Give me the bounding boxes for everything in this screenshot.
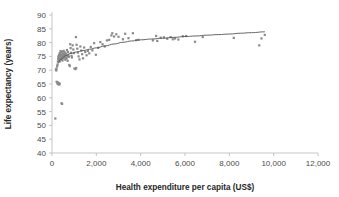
data-point [233, 37, 235, 39]
data-point [67, 51, 69, 53]
data-point [83, 46, 85, 48]
x-axis-tick-labels: 02,0004,0006,0008,00010,00012,000 [50, 159, 331, 168]
x-tick-label: 12,000 [306, 159, 331, 168]
data-point [91, 49, 93, 51]
data-point [110, 34, 112, 36]
chart-container: 4045505560657075808590 02,0004,0006,0008… [0, 0, 339, 197]
data-point [88, 52, 90, 54]
data-point [124, 33, 126, 35]
x-tick-label: 4,000 [131, 159, 152, 168]
data-point [87, 50, 89, 52]
data-point [122, 38, 124, 40]
y-axis-tick-labels: 4045505560657075808590 [37, 11, 46, 158]
data-point [68, 56, 70, 58]
y-tick-label: 60 [37, 94, 46, 103]
data-point [66, 58, 68, 60]
data-point [76, 44, 78, 46]
data-point [71, 56, 73, 58]
data-point [90, 46, 92, 48]
data-point [108, 39, 110, 41]
data-point [70, 47, 72, 49]
data-point [72, 44, 74, 46]
data-point [117, 36, 119, 38]
data-point [59, 83, 61, 85]
scatter-plot: 4045505560657075808590 02,0004,0006,0008… [0, 0, 339, 197]
data-point [54, 117, 56, 119]
data-point [66, 49, 68, 51]
data-point [260, 37, 262, 39]
data-point [177, 38, 179, 40]
data-point [55, 69, 57, 71]
data-point [127, 37, 129, 39]
data-point [61, 103, 63, 105]
y-tick-label: 45 [37, 135, 46, 144]
x-tick-label: 10,000 [261, 159, 286, 168]
data-point [75, 36, 77, 38]
data-point [67, 60, 69, 62]
data-point [78, 58, 80, 60]
data-point [264, 34, 266, 36]
data-point [76, 48, 78, 50]
x-tick-label: 6,000 [175, 159, 196, 168]
data-point [75, 67, 77, 69]
data-point [72, 48, 74, 50]
x-axis-ticks [52, 153, 318, 156]
data-point [172, 38, 174, 40]
y-tick-label: 50 [37, 121, 46, 130]
data-point [69, 65, 71, 67]
data-point [81, 53, 83, 55]
y-tick-label: 85 [37, 25, 46, 34]
y-tick-label: 65 [37, 80, 46, 89]
x-tick-label: 0 [50, 159, 55, 168]
data-point [113, 35, 115, 37]
x-axis-title: Health expenditure per capita (US$) [116, 183, 255, 192]
data-point [155, 35, 157, 37]
x-tick-label: 8,000 [219, 159, 240, 168]
data-point [202, 36, 204, 38]
data-point [61, 59, 63, 61]
y-tick-label: 75 [37, 52, 46, 61]
data-point [258, 44, 260, 46]
data-point [132, 32, 134, 34]
data-point [115, 33, 117, 35]
data-point [156, 40, 158, 42]
data-point [99, 41, 101, 43]
y-axis-ticks [49, 15, 52, 153]
data-point [93, 42, 95, 44]
y-tick-label: 40 [37, 149, 46, 158]
data-point [78, 55, 80, 57]
data-point [84, 51, 86, 53]
data-point [101, 43, 103, 45]
data-point [152, 39, 154, 41]
data-point [79, 45, 81, 47]
y-tick-label: 80 [37, 39, 46, 48]
y-axis-title: Life expectancy (years) [4, 38, 13, 129]
data-point [194, 41, 196, 43]
y-tick-label: 90 [37, 11, 46, 20]
data-point [85, 54, 87, 56]
y-tick-label: 70 [37, 66, 46, 75]
data-point [55, 67, 57, 69]
data-points [54, 32, 266, 119]
data-point [111, 32, 113, 34]
data-point [82, 57, 84, 59]
data-point [69, 43, 71, 45]
data-point [95, 54, 97, 56]
data-point [106, 39, 108, 41]
y-tick-label: 55 [37, 108, 46, 117]
x-tick-label: 2,000 [86, 159, 107, 168]
